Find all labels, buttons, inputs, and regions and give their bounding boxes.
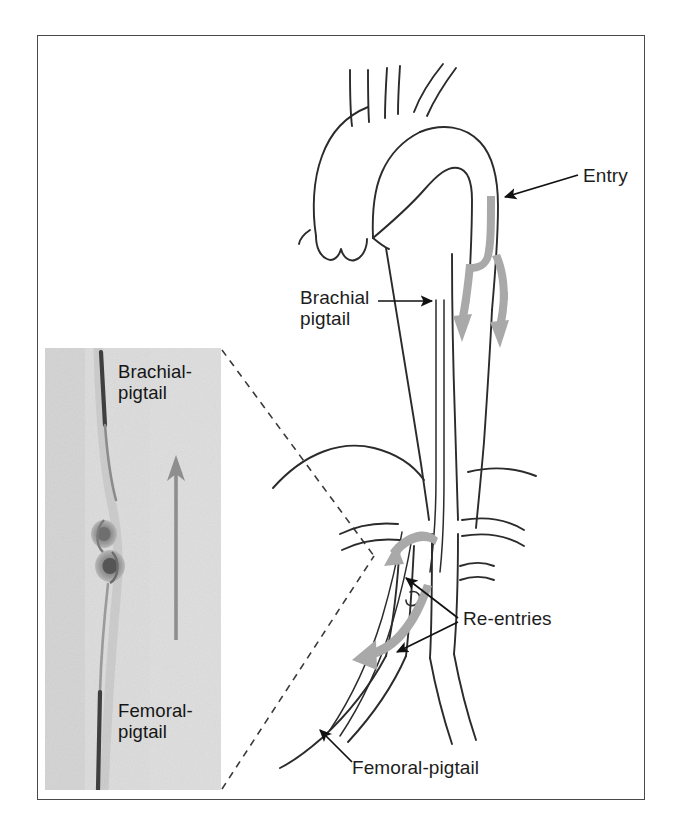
label-brachial-pigtail: Brachialpigtail	[300, 287, 369, 329]
aorta-drawing	[273, 64, 536, 768]
inset-label-brachial-pigtail: Brachial-pigtail	[118, 361, 192, 403]
inset-femoral-catheter	[98, 692, 100, 790]
leader-lines	[320, 175, 578, 762]
inset-label-brachial-line-1: Brachial-	[118, 361, 192, 382]
leader-entry	[505, 175, 578, 197]
inset-label-brachial-line-2: pigtail	[118, 382, 167, 403]
figure-canvas: Entry Brachialpigtail Re-entries Femoral…	[0, 0, 677, 830]
inset-label-femoral-line-1: Femoral-	[118, 700, 193, 721]
leader-femoral-pigtail	[320, 730, 352, 762]
medical-illustration	[0, 0, 677, 830]
label-femoral-pigtail: Femoral-pigtail	[352, 757, 479, 778]
magnification-callout	[222, 350, 374, 789]
label-brachial-line-1: Brachial	[300, 287, 369, 308]
label-reentries: Re-entries	[463, 608, 552, 629]
label-brachial-line-2: pigtail	[300, 308, 350, 329]
inset-label-femoral-line-2: pigtail	[118, 721, 167, 742]
label-entry: Entry	[583, 165, 628, 186]
inset-label-femoral-pigtail: Femoral-pigtail	[118, 700, 193, 742]
